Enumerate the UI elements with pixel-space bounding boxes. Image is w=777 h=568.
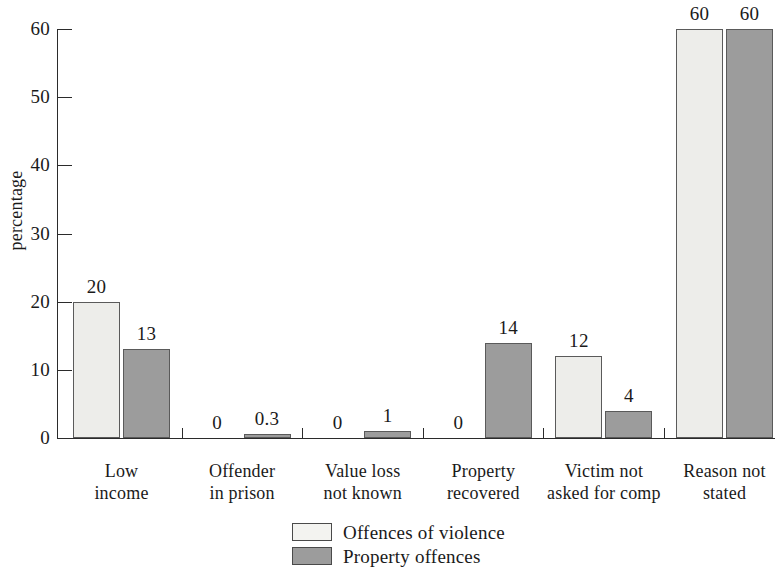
x-axis-tick [543,428,544,439]
y-axis-tick [58,234,72,235]
y-axis-tick [58,29,72,30]
x-axis-line [57,438,775,439]
bar[interactable] [123,349,170,438]
legend-label-offences-of-violence: Offences of violence [343,523,505,542]
bar-value-label: 4 [605,386,652,405]
x-axis-tick [302,428,303,439]
y-axis-tick-label-wrap: 10 [8,360,50,379]
y-axis-tick-label: 0 [16,428,50,447]
y-axis-tick-label: 50 [16,87,50,106]
y-axis-tick-label-wrap: 40 [8,155,50,174]
y-axis-tick-label: 30 [16,224,50,243]
y-axis-tick-label-wrap: 60 [8,19,50,38]
bar[interactable] [676,29,723,438]
y-axis-tick-label-wrap: 50 [8,87,50,106]
legend-item-offences-of-violence[interactable]: Offences of violence [292,521,505,543]
x-axis-tick [182,428,183,439]
y-axis-tick-label-wrap: 0 [8,428,50,447]
bar[interactable] [726,29,773,438]
legend: Offences of violence Property offences [292,521,505,568]
y-axis-tick-label: 40 [16,155,50,174]
y-axis-tick [58,165,72,166]
bar-value-label: 12 [555,331,602,350]
bar[interactable] [555,356,602,438]
x-axis-category-label: Reason notstated [650,460,777,504]
y-axis-tick-label: 20 [16,292,50,311]
x-axis-tick [423,428,424,439]
y-axis-tick [58,438,72,439]
y-axis-tick [58,302,72,303]
bar-chart: percentage 0102030405060 200001260130.31… [0,0,777,568]
bar-value-label: 0 [194,413,241,432]
bar-value-label: 60 [676,4,723,23]
bar[interactable] [73,302,120,438]
x-axis-category-label-line: Reason not [650,460,777,482]
y-axis-tick-label: 60 [16,19,50,38]
bar[interactable] [364,431,411,438]
legend-label-property-offences: Property offences [343,547,481,566]
y-axis-tick-label: 10 [16,360,50,379]
y-axis-tick-label-wrap: 20 [8,292,50,311]
bar[interactable] [244,434,291,438]
bar[interactable] [605,411,652,438]
y-axis-tick [58,370,72,371]
legend-item-property-offences[interactable]: Property offences [292,545,505,567]
x-axis-tick [664,428,665,439]
bar-value-label: 60 [726,4,773,23]
legend-swatch-light [292,523,332,541]
bar-value-label: 0 [435,413,482,432]
y-axis-tick [58,97,72,98]
bar-value-label: 13 [123,324,170,343]
plot-area: percentage 0102030405060 200001260130.31… [0,0,777,460]
legend-swatch-dark [292,547,332,565]
bar-value-label: 0.3 [244,409,291,428]
bar-value-label: 14 [485,318,532,337]
x-axis-category-label-line: stated [650,482,777,504]
bar-value-label: 20 [73,277,120,296]
bar-value-label: 0 [314,413,361,432]
y-axis-tick-label-wrap: 30 [8,224,50,243]
bar[interactable] [485,343,532,438]
bar-value-label: 1 [364,406,411,425]
